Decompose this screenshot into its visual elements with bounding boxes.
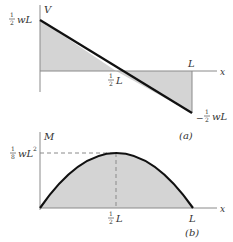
svg-text:1: 1 [109,210,113,217]
svg-text:2: 2 [10,19,14,26]
shear-max-label: 1 2 wL [9,11,33,26]
moment-mid-label: 1 2 L [108,210,123,225]
moment-x-label: x [220,204,225,214]
moment-end-label: L [188,213,196,224]
svg-text:8: 8 [11,153,15,160]
shear-mid-label: 1 2 L [108,72,123,87]
moment-axis-label: M [43,131,55,142]
moment-max-label: 1 8 wL 2 [10,145,37,160]
svg-text:2: 2 [33,145,37,152]
caption-a: (a) [179,130,193,141]
shear-diagram: V x 1 2 wL 1 2 L L − 1 2 wL (a) [9,4,228,141]
shear-min-label: − 1 2 wL [196,108,228,123]
svg-text:wL: wL [212,111,228,122]
shear-end-label: L [187,58,195,69]
shear-axis-label: V [44,4,53,15]
caption-b: (b) [185,227,199,238]
svg-text:wL: wL [18,148,34,159]
beam-diagrams: V x 1 2 wL 1 2 L L − 1 2 wL (a) [0,0,233,242]
svg-text:2: 2 [109,218,113,225]
svg-text:−: − [196,113,204,123]
svg-text:1: 1 [11,145,15,152]
svg-text:wL: wL [17,14,33,25]
svg-text:2: 2 [205,116,209,123]
svg-text:1: 1 [109,72,113,79]
svg-text:2: 2 [109,80,113,87]
moment-diagram: M x 1 8 wL 2 1 2 L L (b) [10,131,225,238]
svg-text:1: 1 [205,108,209,115]
shear-x-label: x [220,67,225,77]
svg-text:1: 1 [10,11,14,18]
svg-text:L: L [115,75,123,86]
svg-text:L: L [115,213,123,224]
